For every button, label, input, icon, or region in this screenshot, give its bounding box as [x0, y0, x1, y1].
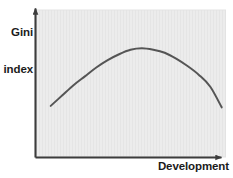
x-axis-label: Development — [133, 160, 229, 172]
y-axis-label-line-1: Gini — [0, 26, 33, 38]
y-axis-label-line-2: index — [0, 63, 33, 75]
plot-background-panel — [36, 10, 226, 157]
chart-canvas — [0, 0, 233, 178]
figure-container: Gini index Development — [0, 0, 233, 178]
y-axis-label: Gini index — [0, 1, 33, 100]
